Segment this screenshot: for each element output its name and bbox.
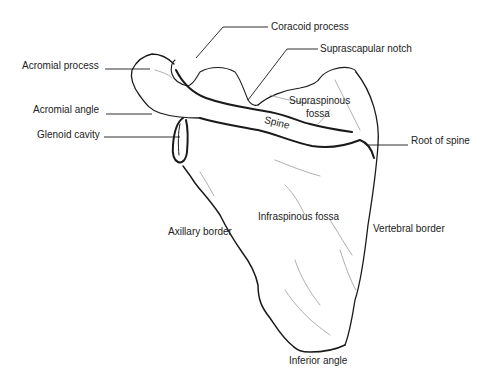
label-supraspinous-fossa-line2: fossa	[306, 108, 330, 120]
scapula-illustration	[0, 0, 494, 384]
axillary-border-line	[183, 166, 294, 347]
label-root-of-spine: Root of spine	[411, 135, 470, 147]
label-inferior-angle: Inferior angle	[289, 355, 347, 367]
label-vertebral-border: Vertebral border	[373, 223, 445, 235]
label-suprascapular-notch: Suprascapular notch	[320, 43, 412, 55]
label-coracoid-process: Coracoid process	[271, 21, 349, 33]
label-supraspinous-fossa-line1: Supraspinous	[289, 95, 350, 107]
label-infraspinous-fossa: Infraspinous fossa	[258, 211, 339, 223]
label-acromial-process: Acromial process	[22, 60, 99, 72]
label-axillary-border: Axillary border	[168, 226, 232, 238]
leader-coracoid	[196, 27, 268, 58]
label-glenoid-cavity: Glenoid cavity	[37, 129, 100, 141]
acromion-line	[131, 54, 200, 118]
scapula-diagram: Coracoid process Suprascapular notch Acr…	[0, 0, 494, 384]
glenoid-cavity-inner	[178, 124, 180, 155]
label-acromial-angle: Acromial angle	[33, 104, 99, 116]
inferior-angle-line	[294, 345, 345, 352]
vertebral-border-line	[345, 72, 378, 345]
